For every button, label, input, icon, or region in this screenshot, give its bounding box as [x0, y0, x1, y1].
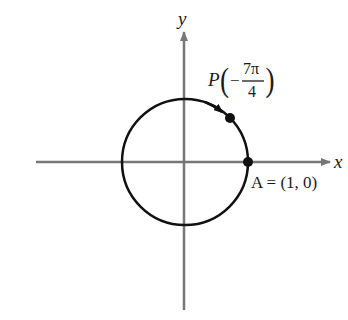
fraction-denominator: 4: [248, 83, 256, 100]
point-p: [225, 113, 235, 123]
point-p-label: P ( − 7π 4 ): [207, 60, 275, 100]
point-p-name: P: [207, 69, 220, 90]
minus-sign: −: [230, 71, 240, 90]
right-paren: ): [266, 61, 275, 99]
y-axis-label: y: [176, 8, 187, 29]
fraction-numerator: 7π: [243, 60, 259, 77]
point-a: [243, 157, 253, 167]
unit-circle-diagram: y x P ( − 7π 4 ) A = (1, 0): [0, 0, 348, 320]
left-paren: (: [220, 61, 229, 99]
point-a-label: A = (1, 0): [251, 173, 317, 192]
x-axis-label: x: [333, 151, 343, 172]
direction-arrow-icon: [205, 102, 222, 112]
